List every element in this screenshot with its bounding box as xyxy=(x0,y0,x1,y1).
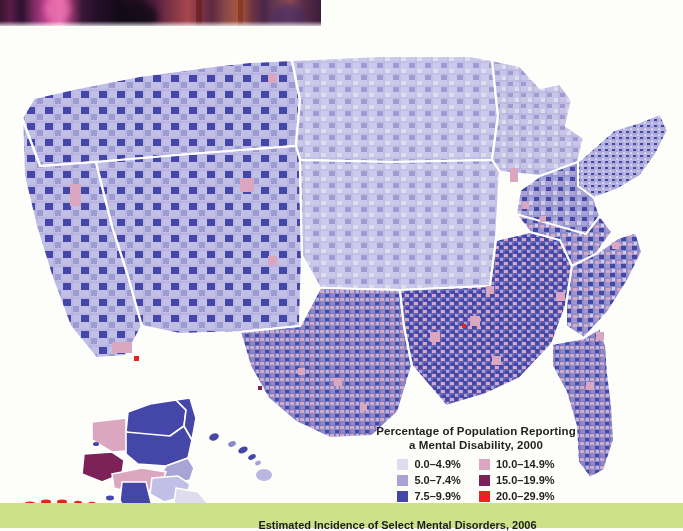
legend-swatch-icon xyxy=(479,491,490,502)
map-inset-alaska xyxy=(10,398,210,505)
legend-item-label: 10.0–14.9% xyxy=(496,458,555,470)
legend-item-label: 0.0–4.9% xyxy=(414,458,460,470)
legend-item-1: 10.0–14.9% xyxy=(479,458,555,470)
region-central-plains xyxy=(300,160,500,290)
map-legend: Percentage of Population Reporting a Men… xyxy=(342,424,610,502)
region-great-lakes xyxy=(492,60,584,176)
alaska-peninsula xyxy=(120,482,152,505)
region-northeast xyxy=(578,114,668,198)
legend-swatch-icon xyxy=(479,475,490,486)
photo-strip xyxy=(0,0,321,26)
photo-streak-orange xyxy=(196,0,202,26)
legend-title-line2: a Mental Disability, 2000 xyxy=(342,438,610,452)
photo-highlight-blue xyxy=(272,4,306,26)
legend-title: Percentage of Population Reporting a Men… xyxy=(342,424,610,452)
region-northern-plains xyxy=(292,56,498,162)
legend-item-label: 7.5–9.9% xyxy=(414,490,460,502)
legend-item-2: 5.0–7.4% xyxy=(397,474,460,486)
legend-item-label: 15.0–19.9% xyxy=(496,474,555,486)
legend-item-4: 7.5–9.9% xyxy=(397,490,460,502)
legend-items: 0.0–4.9% 10.0–14.9% 5.0–7.4% 15.0–19.9% … xyxy=(342,458,610,502)
legend-item-3: 15.0–19.9% xyxy=(479,474,555,486)
legend-item-label: 20.0–29.9% xyxy=(496,490,555,502)
legend-swatch-icon xyxy=(397,459,408,470)
legend-item-label: 5.0–7.4% xyxy=(414,474,460,486)
photo-highlight-magenta xyxy=(44,0,70,22)
legend-swatch-icon xyxy=(397,475,408,486)
legend-title-line1: Percentage of Population Reporting xyxy=(342,424,610,438)
map-inset-hawaii xyxy=(208,432,272,481)
photo-shadow-dark xyxy=(118,2,158,26)
map-contiguous-us xyxy=(22,56,668,478)
legend-item-5: 20.0–29.9% xyxy=(479,490,555,502)
photo-streak-amber xyxy=(238,0,243,26)
legend-swatch-icon xyxy=(397,491,408,502)
legend-swatch-icon xyxy=(479,459,490,470)
bottom-banner-title: Estimated Incidence of Select Mental Dis… xyxy=(112,519,683,531)
legend-item-0: 0.0–4.9% xyxy=(397,458,460,470)
